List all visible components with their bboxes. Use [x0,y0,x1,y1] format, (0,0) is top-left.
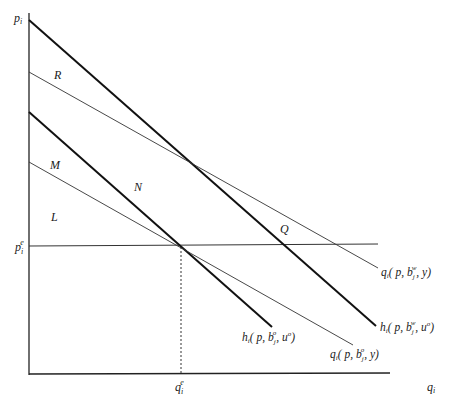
x-axis [29,373,390,374]
curve-label-h-o: hi( p, bjo, uo) [242,329,295,346]
compensated-demand-curve-o [29,112,272,327]
marshallian-demand-curve-o [29,162,353,345]
region-label-q: Q [280,222,289,236]
demand-curve-diagram: pi qi pie qie R M N L Q qi( p, bjw, y) h… [0,0,457,409]
equilibrium-quantity-label: qie [175,378,184,396]
marshallian-demand-curve-w [29,72,378,268]
y-axis-label: pi [13,11,22,26]
region-label-l: L [50,210,58,224]
region-label-r: R [53,68,62,82]
compensated-demand-curve-w [29,20,376,326]
equilibrium-price-label: pie [14,238,24,256]
x-axis-label: qi [427,380,435,395]
equilibrium-price-line [29,244,378,246]
curve-label-q-o: qi( p, bjo, y) [330,346,379,363]
curve-label-h-w: hi( p, bjw, uo) [380,319,434,336]
curve-label-q-w: qi( p, bjw, y) [381,264,431,281]
region-label-n: N [133,180,143,194]
region-label-m: M [49,158,61,172]
